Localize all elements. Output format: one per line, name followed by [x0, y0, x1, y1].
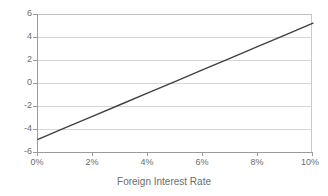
- x-tick-mark-2: [92, 152, 93, 156]
- x-axis-line: [37, 152, 312, 153]
- x-axis-title: Foreign Interest Rate: [0, 176, 328, 188]
- y-tick-label-neg4: -4: [24, 124, 32, 133]
- y-tick-label-neg2: -2: [24, 101, 32, 110]
- x-tick-mark-0: [37, 152, 38, 156]
- x-tick-label-0: 0%: [30, 158, 43, 167]
- plot-area: [37, 14, 312, 152]
- y-tick-label-6: 6: [27, 9, 32, 18]
- y-tick-label-neg6: -6: [24, 147, 32, 156]
- x-tick-mark-10: [312, 152, 313, 156]
- series-line-0: [38, 23, 313, 139]
- y-tick-label-2: 2: [27, 55, 32, 64]
- chart-container: 6 4 2 0 -2 -4 -6 0% 2% 4% 6% 8% 10% Fore…: [0, 0, 328, 196]
- x-tick-mark-4: [147, 152, 148, 156]
- series-line-chart: [38, 14, 313, 152]
- x-tick-label-8: 8%: [250, 158, 263, 167]
- x-tick-label-2: 2%: [85, 158, 98, 167]
- x-tick-mark-6: [202, 152, 203, 156]
- x-tick-mark-8: [257, 152, 258, 156]
- x-tick-label-4: 4%: [140, 158, 153, 167]
- x-tick-label-6: 6%: [195, 158, 208, 167]
- y-tick-label-4: 4: [27, 32, 32, 41]
- x-tick-label-10: 10%: [301, 158, 319, 167]
- y-tick-label-0: 0: [27, 78, 32, 87]
